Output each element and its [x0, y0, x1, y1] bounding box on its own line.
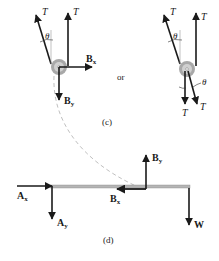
free-body-diagram: T T θ Bx By or T T θ θ T T (c)	[0, 0, 219, 261]
label-ax: Ax	[17, 190, 28, 203]
label-tension-top-left: T	[170, 6, 177, 17]
pulley-diagram-left: T T θ Bx By	[36, 6, 97, 108]
label-tension-bottom-right: T	[200, 101, 207, 112]
label-bx: Bx	[86, 53, 97, 66]
beam-diagram: Ax Ay By Bx W	[17, 152, 204, 230]
caption-d: (d)	[103, 235, 114, 245]
pulley-diagram-right: T T θ θ T T	[164, 6, 208, 118]
dashed-connector	[54, 76, 136, 186]
label-tension-right: T	[73, 6, 80, 17]
label-weight: W	[194, 219, 204, 230]
label-by: By	[64, 95, 75, 108]
label-angle-theta: θ	[45, 31, 50, 41]
label-angle-theta-top: θ	[173, 31, 178, 41]
caption-c: (c)	[102, 117, 112, 127]
label-ay: Ay	[57, 217, 68, 230]
label-angle-theta-bottom: θ	[202, 77, 207, 87]
pulley-axle	[186, 68, 189, 71]
angle-arc-bottom-right	[193, 83, 201, 87]
label-by: By	[152, 152, 163, 165]
label-bx: Bx	[110, 193, 121, 206]
label-tension-top-right: T	[201, 11, 208, 22]
label-tension-bottom-left: T	[182, 107, 189, 118]
beam	[50, 185, 190, 188]
tension-arrow-bottom-angled	[188, 71, 197, 104]
label-tension-left: T	[42, 6, 49, 17]
label-or: or	[117, 72, 125, 82]
